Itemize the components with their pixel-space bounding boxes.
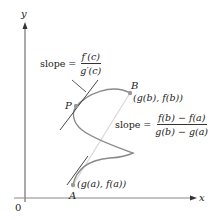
point-B-label: B — [131, 81, 138, 91]
secant-slope-annotation: slope = f(b) − f(a) g(b) − g(a) — [115, 112, 209, 137]
origin-label: 0 — [15, 203, 21, 213]
point-P-marker — [74, 104, 78, 108]
x-axis-arrow-icon — [190, 196, 197, 201]
point-A-marker — [71, 183, 75, 187]
secant-slope-denominator: g(b) − g(a) — [154, 125, 209, 137]
point-A-label: A — [69, 191, 76, 201]
tangent-slope-prefix: slope = — [40, 58, 76, 69]
point-B-coords: (g(b), f(b)) — [133, 93, 183, 103]
point-B-marker — [128, 91, 132, 95]
x-axis-label: x — [199, 193, 205, 203]
y-axis-label: y — [21, 9, 27, 19]
y-axis-arrow-icon — [23, 22, 28, 29]
point-P-label: P — [65, 101, 72, 111]
secant-slope-fraction: f(b) − f(a) g(b) − g(a) — [154, 112, 209, 137]
tangent-label-leader — [72, 80, 86, 92]
secant-line — [73, 93, 130, 185]
cauchy-mean-value-diagram: y x 0 P B (g(b), f(b)) A (g(a), f(a)) sl… — [0, 0, 217, 220]
tangent-slope-denominator: g′(c) — [79, 64, 102, 76]
secant-slope-numerator: f(b) − f(a) — [157, 112, 207, 125]
secant-slope-prefix: slope = — [115, 119, 151, 130]
tangent-slope-annotation: slope = f′(c) g′(c) — [40, 51, 102, 76]
point-A-coords: (g(a), f(a)) — [77, 179, 126, 189]
tangent-slope-numerator: f′(c) — [81, 51, 101, 64]
tangent-slope-fraction: f′(c) g′(c) — [79, 51, 102, 76]
